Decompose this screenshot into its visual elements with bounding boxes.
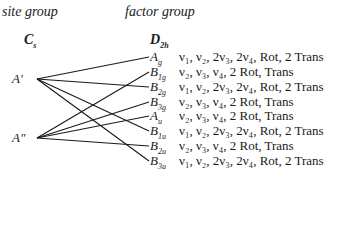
site-species-a1: A′ (12, 71, 23, 87)
correlation-line (37, 138, 149, 146)
correlation-line (37, 102, 149, 138)
vibrational-modes: ν₂, ν₃, ν₄, 2 Rot, Trans (179, 108, 294, 124)
vibrational-modes: ν₂, ν₃, ν₄, 2 Rot, Trans (179, 64, 294, 80)
correlation-line (37, 57, 149, 79)
species-letter: B (150, 153, 158, 168)
species-letter: A (150, 49, 158, 64)
species-letter: B (150, 64, 158, 79)
species-subscript: 3u (158, 162, 166, 171)
vibrational-modes: ν₁, ν₂, 2ν₃, 2ν₄, Rot, 2 Trans (179, 49, 324, 65)
species-letter: B (150, 79, 158, 94)
vibrational-modes: ν₁, ν₂, 2ν₃, 2ν₄, Rot, 2 Trans (179, 79, 324, 95)
correlation-line (37, 72, 149, 138)
species-letter: A (150, 108, 158, 123)
factor-species-symbol: B3u (150, 153, 166, 171)
vibrational-modes: ν₁, ν₂, 2ν₃, 2ν₄, Rot, 2 Trans (179, 153, 324, 169)
site-species-a2: A″ (12, 130, 25, 146)
correlation-line (37, 116, 149, 138)
species-letter: B (150, 94, 158, 109)
species-letter: B (150, 138, 158, 153)
correlation-line (37, 79, 149, 87)
vibrational-modes: ν₁, ν₂, 2ν₃, 2ν₄, Rot, 2 Trans (179, 123, 324, 139)
species-letter: B (150, 123, 158, 138)
vibrational-modes: ν₂, ν₃, ν₄, 2 Rot, Trans (179, 138, 294, 154)
